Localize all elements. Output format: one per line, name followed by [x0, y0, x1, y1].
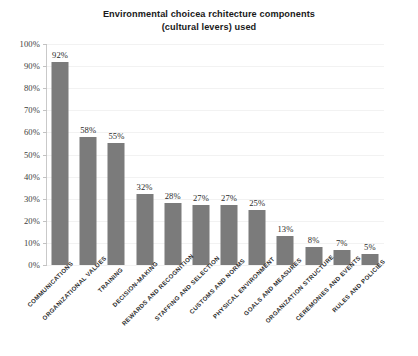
y-axis-tick-label: 20%	[24, 216, 40, 226]
bar-slot: 28%	[159, 44, 187, 265]
chart-title-line-1: Environmental choicea rchitecture compon…	[103, 9, 315, 19]
y-axis-tick-label: 90%	[24, 61, 40, 71]
bar[interactable]	[221, 205, 238, 265]
bar[interactable]	[80, 137, 97, 265]
bar-slot: 13%	[271, 44, 299, 265]
y-axis-tick-label: 10%	[24, 238, 40, 248]
y-axis-tick-label: 100%	[20, 39, 40, 49]
bar-value-label: 32%	[137, 182, 153, 192]
x-axis-tick-label: Training	[97, 266, 125, 294]
y-axis-tick-label: 40%	[24, 172, 40, 182]
bar[interactable]	[52, 62, 69, 265]
y-axis-tick-label: 50%	[24, 150, 40, 160]
bar-slot: 5%	[356, 44, 384, 265]
bar[interactable]	[192, 205, 209, 265]
bar[interactable]	[136, 194, 153, 265]
bar-value-label: 5%	[364, 242, 376, 252]
y-axis-tick-label: 60%	[24, 127, 40, 137]
bar-slot: 7%	[328, 44, 356, 265]
bar-value-label: 55%	[108, 131, 124, 141]
bar-slot: 25%	[243, 44, 271, 265]
bar-value-label: 92%	[52, 50, 68, 60]
bar-value-label: 27%	[221, 193, 237, 203]
bar-slot: 27%	[215, 44, 243, 265]
bar[interactable]	[108, 143, 125, 265]
bar-value-label: 25%	[249, 198, 265, 208]
y-axis-tick-label: 70%	[24, 105, 40, 115]
bar-value-label: 28%	[165, 191, 181, 201]
bar[interactable]	[164, 203, 181, 265]
bar-value-label: 8%	[308, 235, 320, 245]
y-axis-tick-label: 80%	[24, 83, 40, 93]
bar-slot: 32%	[131, 44, 159, 265]
chart-title-line-2: (cultural levers) used	[0, 21, 418, 34]
bar-value-label: 27%	[193, 193, 209, 203]
y-axis-tick-label: 30%	[24, 194, 40, 204]
bar-slot: 55%	[102, 44, 130, 265]
bar-slot: 8%	[300, 44, 328, 265]
bar-slot: 58%	[74, 44, 102, 265]
bar-slot: 92%	[46, 44, 74, 265]
y-axis-tick-mark	[43, 265, 47, 266]
bar-chart: Environmental choicea rchitecture compon…	[0, 0, 418, 356]
x-axis-tick-label-text: Training	[97, 266, 125, 294]
bar-value-label: 13%	[277, 224, 293, 234]
chart-title: Environmental choicea rchitecture compon…	[0, 8, 418, 33]
bar-value-label: 7%	[336, 238, 348, 248]
bar[interactable]	[249, 210, 266, 265]
bar-value-label: 58%	[80, 125, 96, 135]
bar-slot: 27%	[187, 44, 215, 265]
plot-area: 0%10%20%30%40%50%60%70%80%90%100% 92%58%…	[46, 44, 384, 265]
y-axis-tick-label: 0%	[28, 260, 40, 270]
